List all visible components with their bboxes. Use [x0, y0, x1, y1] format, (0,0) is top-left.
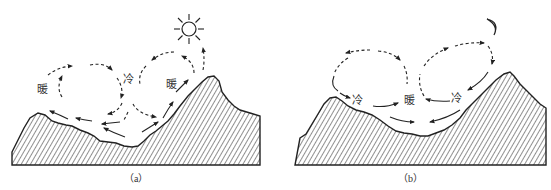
label-cold-right: 冷	[451, 92, 462, 105]
flow-arrow	[346, 50, 370, 53]
flow-line	[420, 74, 425, 96]
label-warm-center: 暖	[404, 94, 415, 107]
flow-arrow	[182, 56, 194, 73]
panel-b: 冷 暖 冷 （b）	[295, 19, 546, 184]
flow-arrow	[104, 128, 125, 137]
flow-arrow	[90, 64, 112, 70]
label-warm-left: 暖	[37, 83, 48, 96]
flow-arrow	[430, 110, 460, 122]
diagram-canvas: 暖 冷 暖 （a） 冷 暖 冷 （b）	[0, 0, 551, 190]
flow-line	[124, 112, 128, 120]
flow-line	[333, 76, 338, 91]
label-cold-center: 冷	[123, 73, 134, 86]
flow-arrow	[48, 66, 72, 75]
flow-arrow	[59, 76, 62, 97]
flow-arrow	[163, 102, 173, 118]
terrain-b	[295, 72, 546, 165]
flow-arrow	[50, 111, 68, 119]
terrain-a	[12, 76, 260, 165]
sun-icon	[174, 14, 204, 44]
panel-a: 暖 冷 暖 （a）	[12, 14, 260, 184]
flow-arrow	[340, 93, 350, 98]
flow-arrow	[378, 51, 400, 60]
flow-arrow	[133, 104, 156, 117]
flow-arrow	[152, 52, 174, 60]
flow-arrow	[176, 80, 188, 92]
label-cold-left: 冷	[352, 94, 363, 107]
flow-arrow	[117, 78, 122, 98]
flow-arrow	[102, 122, 120, 124]
label-warm-right: 暖	[166, 78, 177, 91]
flow-arrow	[426, 99, 450, 101]
flow-arrow	[468, 72, 488, 90]
flow-arrow	[373, 103, 398, 107]
flow-line	[334, 58, 348, 74]
moon-icon	[487, 19, 496, 35]
flow-arrow	[455, 43, 484, 46]
caption-a: （a）	[124, 173, 148, 184]
flow-arrow	[488, 46, 493, 64]
flow-line	[404, 66, 407, 84]
flow-arrow	[76, 118, 92, 121]
flow-arrow	[108, 103, 122, 114]
caption-b: （b）	[398, 173, 423, 184]
flow-arrow	[424, 48, 448, 66]
flow-line	[140, 66, 146, 84]
flow-arrow	[203, 48, 204, 70]
flow-arrow	[390, 117, 414, 122]
